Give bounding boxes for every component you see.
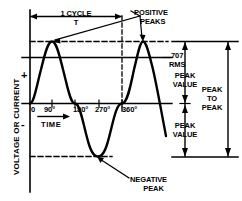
peak-value-mid-arrow-down — [182, 105, 188, 113]
x-tick-label-90: 90° — [44, 106, 55, 114]
x-tick-label-180: 180° — [73, 106, 88, 114]
positive-peaks-arrow-right — [140, 35, 146, 42]
time-arrow-head — [63, 114, 70, 120]
peak-value-bottom-label-line1: PEAK — [160, 122, 210, 130]
peak-to-peak-label-line1: PEAK — [197, 86, 227, 94]
peak-value-bottom-label-line2: VALUE — [160, 131, 210, 139]
x-tick-label-0: 0 — [31, 106, 35, 114]
negative-peak-arrow — [97, 157, 104, 164]
ac-waveform-diagram: 1 CYCLE T POSITIVE PEAKS .707 RMS PEAK V… — [0, 0, 242, 201]
negative-peak-leader-line — [100, 159, 129, 178]
peak-to-peak-label-line2: TO — [197, 95, 227, 103]
rms-label-line1: .707 — [169, 52, 183, 60]
x-tick-label-360: 360° — [122, 106, 137, 114]
x-tick-label-270: 270° — [95, 106, 110, 114]
peak-value-top-label-line1: PEAK — [160, 72, 210, 80]
negative-peak-label-line2: PEAK — [130, 185, 177, 193]
sine-waveform — [30, 42, 166, 157]
positive-peaks-label-line2: PEAKS — [140, 18, 165, 26]
positive-peaks-label-line1: POSITIVE — [134, 9, 168, 17]
rms-label-line2: RMS — [169, 61, 185, 69]
cycle-dimension-arrow-left — [30, 14, 37, 20]
peak-to-peak-label-line3: PEAK — [197, 104, 227, 112]
peak-to-peak-bottom-arrow — [225, 148, 231, 157]
cycle-label-line2: T — [42, 19, 110, 27]
peak-value-bottom-arrow — [182, 148, 188, 157]
y-axis-minus-sign: - — [21, 118, 25, 130]
peak-value-top-arrow — [182, 42, 188, 50]
cycle-label-line1: 1 CYCLE — [42, 10, 110, 18]
y-axis-label: VOLTAGE OR CURRENT — [12, 78, 21, 175]
x-axis-time-label: TIME — [41, 121, 61, 129]
negative-peak-label-line1: NEGATIVE — [130, 176, 167, 184]
cycle-dimension-arrow-right — [115, 14, 122, 20]
peak-to-peak-top-arrow — [225, 42, 231, 50]
y-axis-plus-sign: + — [21, 69, 27, 81]
peak-value-mid-arrow-up — [182, 95, 188, 103]
